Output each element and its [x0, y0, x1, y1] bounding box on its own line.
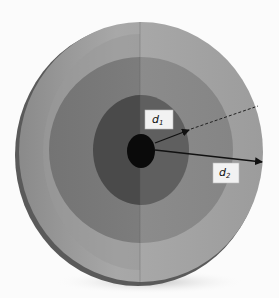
- d1-label: d1: [145, 110, 173, 129]
- d1-label-sub: 1: [159, 119, 163, 127]
- center-point: [127, 134, 155, 168]
- d2-label: d2: [213, 163, 239, 183]
- d2-label-sub: 2: [226, 172, 231, 180]
- concentric-disc-figure: d1 d2: [0, 0, 279, 298]
- diagram-stage: d1 d2: [0, 0, 279, 298]
